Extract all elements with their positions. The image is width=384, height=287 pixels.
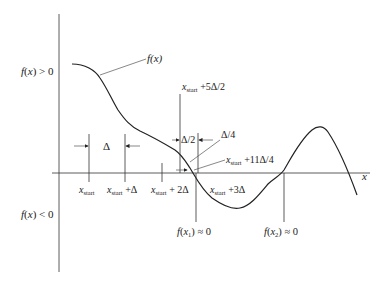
eleven-quarter-delta-label: xstart +11Δ/4 (225, 154, 274, 166)
tick-label-xstart-plus-2delta: xstart + 2Δ (150, 184, 189, 196)
tick-label-xstart-plus-3delta: xstart +3Δ (209, 184, 246, 196)
negative-region-label: f(x) < 0 (21, 208, 54, 221)
eleven-quarter-leader (194, 160, 225, 170)
positive-region-label: f(x) > 0 (21, 65, 54, 78)
root1-label: f(x1) ≈ 0 (177, 226, 211, 238)
tick-label-xstart-plus-delta: xstart +Δ (106, 184, 138, 196)
quarter-delta-label: Δ/4 (221, 129, 235, 140)
diagram-canvas: f(x) f(x) > 0 f(x) < 0 x Δ xstart +5Δ/2 … (0, 0, 384, 287)
five-half-delta-label: xstart +5Δ/2 (181, 81, 225, 93)
root2-label: f(x2) ≈ 0 (264, 226, 298, 238)
tick-label-xstart: xstart (78, 184, 95, 196)
half-delta-label: Δ/2 (181, 134, 195, 145)
delta-label: Δ (103, 140, 110, 152)
x-axis-label: x (361, 170, 367, 182)
curve-label: f(x) (147, 52, 163, 65)
curve-label-leader (100, 59, 146, 75)
